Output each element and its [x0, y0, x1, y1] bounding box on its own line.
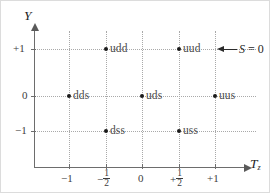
- gridline-vertical-tz-minus-1: [69, 31, 70, 167]
- data-point-uud: [177, 47, 182, 52]
- data-point-udd: [104, 47, 109, 52]
- strangeness-relation: =: [248, 42, 255, 56]
- strangeness-arrow-line: [222, 49, 237, 50]
- data-point-label-uss: uss: [183, 124, 198, 136]
- strangeness-value: 0: [258, 42, 264, 56]
- x-tick-label-plus-1-value: 1: [213, 172, 219, 184]
- data-point-label-uus: uus: [219, 89, 235, 101]
- x-tick-label-minus-1: −1: [61, 171, 73, 184]
- x-tick-plus-1: [215, 164, 216, 169]
- y-tick-label-plus-1: +1: [13, 42, 25, 54]
- x-axis-title: Tz: [250, 156, 261, 172]
- fraction-denominator: 2: [176, 179, 183, 189]
- x-tick-minus-1: [69, 164, 70, 169]
- fraction-denominator: 2: [103, 179, 110, 189]
- y-axis-arrowhead-icon: [31, 23, 39, 31]
- data-point-label-uud: uud: [183, 42, 201, 54]
- data-point-label-uds: uds: [146, 89, 162, 101]
- x-tick-label-minus-1-value: 1: [67, 172, 73, 184]
- data-point-uus: [213, 94, 218, 99]
- gridline-vertical-tz-minus-half: [106, 31, 107, 167]
- strangeness-symbol: S: [239, 42, 245, 56]
- data-point-uss: [177, 129, 182, 134]
- data-point-label-udd: udd: [110, 42, 128, 54]
- x-tick-label-zero: 0: [138, 171, 144, 184]
- y-tick-label-zero: 0: [22, 89, 28, 101]
- gridline-vertical-tz-plus-1: [215, 31, 216, 167]
- weight-diagram-figure: +1 0 −1 −1 −12 0 +12 +1 Y Tz udd uud dds…: [0, 0, 270, 193]
- gridline-vertical-tz-plus-half: [179, 31, 180, 167]
- gridline-horizontal-y-minus-1: [34, 131, 256, 132]
- plot-area: +1 0 −1 −1 −12 0 +12 +1 Y Tz udd uud dds…: [1, 1, 270, 193]
- y-tick-plus-1: [31, 49, 36, 50]
- x-tick-label-zero-value: 0: [138, 172, 144, 184]
- y-axis-line: [34, 30, 35, 168]
- x-axis-title-subscript: z: [258, 163, 261, 172]
- y-tick-minus-1: [31, 131, 36, 132]
- x-tick-label-plus-1: +1: [207, 171, 219, 184]
- x-tick-label-minus-half: −12: [97, 169, 110, 189]
- data-point-label-dss: dss: [110, 124, 125, 136]
- y-axis-title: Y: [24, 8, 32, 24]
- x-tick-label-plus-half: +12: [170, 169, 183, 189]
- data-point-dds: [67, 94, 72, 99]
- gridline-vertical-tz-zero: [142, 31, 143, 167]
- x-tick-label-plus-half-fraction: 12: [176, 169, 183, 189]
- data-point-uds: [140, 94, 145, 99]
- y-tick-zero: [31, 96, 36, 97]
- x-tick-zero: [142, 164, 143, 169]
- data-point-dss: [104, 129, 109, 134]
- strangeness-annotation: S = 0: [239, 42, 264, 57]
- data-point-label-dds: dds: [73, 89, 89, 101]
- x-axis-line: [34, 167, 245, 168]
- x-tick-label-minus-half-fraction: 12: [103, 169, 110, 189]
- y-tick-label-minus-1: −1: [15, 124, 27, 136]
